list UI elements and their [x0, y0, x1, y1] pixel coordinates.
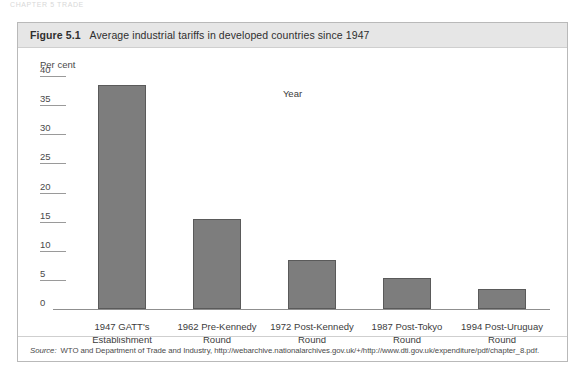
figure-title: Average industrial tariffs in developed … [90, 29, 370, 41]
x-axis-tick-label: 1962 Pre-KennedyRound [163, 320, 271, 346]
bar [383, 278, 431, 309]
x-axis-tick-label-line: Establishment [68, 333, 176, 346]
y-axis-tick-mark [40, 76, 66, 77]
figure-source: Source:WTO and Department of Trade and I… [30, 346, 559, 355]
x-axis-line [53, 309, 550, 310]
figure-box: Figure 5.1 Average industrial tariffs in… [17, 22, 568, 362]
y-axis-tick-mark [40, 251, 66, 252]
y-axis-tick-label: 15 [40, 210, 51, 221]
y-axis-tick-label: 25 [40, 151, 51, 162]
bar [478, 289, 526, 309]
x-axis-tick-label-line: 1994 Post-Uruguay [448, 320, 556, 333]
bar [288, 260, 336, 310]
x-axis-tick-label: 1947 GATT'sEstablishment [68, 320, 176, 346]
y-axis-tick-mark [40, 280, 66, 281]
running-page-header: CHAPTER 5 TRADE [10, 1, 84, 8]
bar [193, 219, 241, 309]
y-axis-tick-label: 20 [40, 181, 51, 192]
chart-area: Per cent 0510152025303540 1947 GATT'sEst… [18, 48, 567, 361]
x-axis-tick-label-line: 1947 GATT's [68, 320, 176, 333]
x-axis-tick-label-line: Round [163, 333, 271, 346]
y-axis-tick-mark [40, 309, 66, 310]
plot-region: 0510152025303540 [40, 76, 550, 316]
source-label: Source: [30, 346, 57, 355]
x-axis-tick-label-line: 1962 Pre-Kennedy [163, 320, 271, 333]
bar-series [53, 76, 550, 309]
x-axis-tick-label: 1987 Post-TokyoRound [353, 320, 461, 346]
y-axis-tick-label: 40 [40, 64, 51, 75]
figure-number: Figure 5.1 [30, 29, 81, 41]
x-axis-tick-label-line: Round [258, 333, 366, 346]
y-axis-tick-label: 5 [40, 268, 45, 279]
y-axis-tick-mark [40, 134, 66, 135]
y-axis-tick-mark [40, 163, 66, 164]
x-axis-tick-label-line: Round [448, 333, 556, 346]
x-axis-title: Year [18, 88, 567, 99]
x-axis-tick-label: 1994 Post-UruguayRound [448, 320, 556, 346]
y-axis-tick-label: 10 [40, 239, 51, 250]
y-axis-tick-mark [40, 193, 66, 194]
x-axis-tick-label-line: 1972 Post-Kennedy [258, 320, 366, 333]
y-axis-tick-mark [40, 222, 66, 223]
y-axis-tick-mark [40, 105, 66, 106]
source-text: WTO and Department of Trade and Industry… [61, 346, 540, 355]
x-axis-tick-label-line: 1987 Post-Tokyo [353, 320, 461, 333]
source-divider [18, 336, 567, 337]
bar [98, 85, 146, 309]
x-axis-tick-label-line: Round [353, 333, 461, 346]
y-axis-tick-label: 30 [40, 122, 51, 133]
figure-caption: Figure 5.1 Average industrial tariffs in… [18, 23, 567, 48]
y-axis-tick-label: 0 [40, 297, 45, 308]
x-axis-tick-label: 1972 Post-KennedyRound [258, 320, 366, 346]
